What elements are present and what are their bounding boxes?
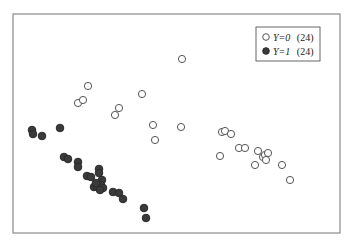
data-point [111,111,118,118]
data-point [286,176,293,183]
data-point [92,179,100,187]
data-point [177,123,184,130]
data-point [95,169,103,177]
series-y1-points [28,124,150,222]
legend-filled-circle-icon [263,48,270,55]
data-point [138,90,145,97]
data-point [262,156,269,163]
data-point [216,152,223,159]
data-point [96,186,104,194]
data-point [151,136,158,143]
data-point [29,130,37,138]
data-point [251,161,258,168]
data-point [254,147,261,154]
data-point [79,96,86,103]
data-point [264,149,271,156]
data-point [178,55,185,62]
data-point [142,214,150,222]
legend-y0-var: Y=0 [273,32,290,43]
data-point [140,204,148,212]
data-point [84,82,91,89]
data-point [241,144,248,151]
data-point [38,132,46,140]
legend-y0-count: (24) [297,32,314,44]
data-point [119,195,127,203]
data-point [278,161,285,168]
legend-open-circle-icon [263,34,270,41]
scatter-plot: Y=0 (24) Y=1 (24) [0,0,349,243]
legend-y1-var: Y=1 [273,46,290,57]
data-point [149,121,156,128]
data-point [74,163,82,171]
data-point [227,130,234,137]
series-y0-points [74,55,293,183]
data-point [115,104,122,111]
data-point [56,124,64,132]
legend: Y=0 (24) Y=1 (24) [256,27,320,61]
legend-y1-count: (24) [297,46,314,58]
data-point [64,155,72,163]
